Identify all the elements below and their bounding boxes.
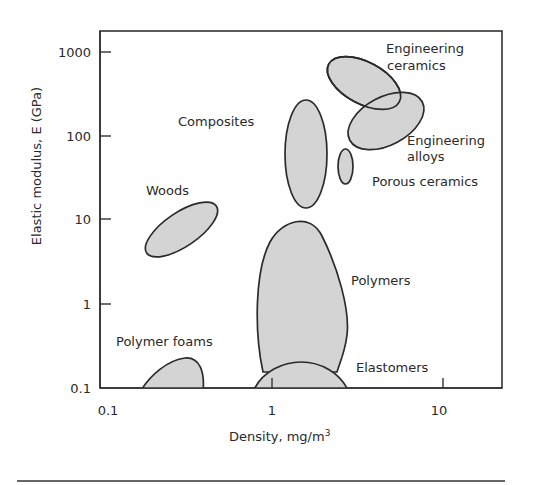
y-axis-ticks bbox=[100, 52, 111, 304]
label-polymers: Polymers bbox=[351, 273, 411, 288]
y-tick-1: 1 bbox=[83, 297, 91, 312]
region-polymers bbox=[257, 221, 347, 372]
x-tick-labels: 0.1 1 10 bbox=[98, 403, 448, 418]
chart-svg: 1000 100 10 1 0.1 0.1 1 10 Density, mg/m… bbox=[0, 0, 537, 485]
x-tick-1: 1 bbox=[268, 403, 276, 418]
label-engineering-alloys-line2: alloys bbox=[407, 149, 445, 164]
label-engineering-alloys-line1: Engineering bbox=[407, 133, 485, 148]
y-axis-title: Elastic modulus, E (GPa) bbox=[29, 87, 44, 245]
region-composites bbox=[285, 100, 327, 208]
y-tick-100: 100 bbox=[66, 129, 91, 144]
label-elastomers: Elastomers bbox=[356, 360, 429, 375]
x-axis-title: Density, mg/m3 bbox=[229, 428, 330, 444]
region-porous-ceramics bbox=[338, 149, 353, 184]
region-polymer-foams bbox=[140, 358, 203, 392]
x-tick-10: 10 bbox=[431, 403, 448, 418]
label-composites: Composites bbox=[178, 114, 254, 129]
y-tick-1000: 1000 bbox=[58, 45, 91, 60]
chart: 1000 100 10 1 0.1 0.1 1 10 Density, mg/m… bbox=[0, 0, 537, 485]
label-woods: Woods bbox=[146, 183, 189, 198]
y-tick-labels: 1000 100 10 1 0.1 bbox=[58, 45, 91, 396]
y-tick-10: 10 bbox=[74, 212, 91, 227]
label-polymer-foams: Polymer foams bbox=[116, 334, 213, 349]
region-woods bbox=[137, 192, 226, 267]
label-porous-ceramics: Porous ceramics bbox=[372, 174, 478, 189]
y-tick-0.1: 0.1 bbox=[70, 381, 91, 396]
label-engineering-ceramics-line2: ceramics bbox=[387, 58, 446, 73]
x-tick-0.1: 0.1 bbox=[98, 403, 119, 418]
label-engineering-ceramics-line1: Engineering bbox=[386, 41, 464, 56]
